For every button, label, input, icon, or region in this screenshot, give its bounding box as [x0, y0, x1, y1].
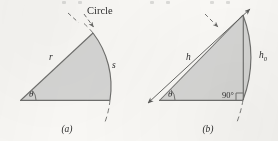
- panel-a: Circle r s θ (a): [20, 5, 116, 135]
- circle-label: Circle: [87, 5, 113, 16]
- circle-leader-tail-a: [68, 13, 79, 23]
- circle-extension-bottom-b: [237, 100, 243, 122]
- right-angle-label-b: 90°: [222, 90, 234, 100]
- angle-label-a: θ: [29, 89, 34, 99]
- height-label-b: h0: [259, 50, 268, 62]
- sector-b-fill: [160, 15, 251, 100]
- degree-symbol: °: [231, 90, 234, 100]
- caption-b: (b): [202, 124, 213, 135]
- figure-root: Circle r s θ (a): [0, 0, 278, 141]
- arc-leader-line-b: [205, 14, 218, 27]
- arc-label-a: s: [112, 60, 116, 70]
- radius-label-a: r: [49, 52, 53, 62]
- angle-label-b: θ: [168, 89, 173, 99]
- sector-a-fill: [21, 33, 111, 100]
- circle-extension-bottom-a: [105, 100, 110, 122]
- right-angle-value: 90: [222, 90, 231, 100]
- chord-label-b: h: [186, 52, 191, 62]
- caption-a: (a): [61, 124, 72, 135]
- circle-extension-top-a: [84, 24, 93, 34]
- height-label-subscript: 0: [264, 55, 268, 62]
- panel-b: h h0 θ 90° (b): [148, 9, 268, 135]
- figure-svg: Circle r s θ (a): [0, 0, 278, 141]
